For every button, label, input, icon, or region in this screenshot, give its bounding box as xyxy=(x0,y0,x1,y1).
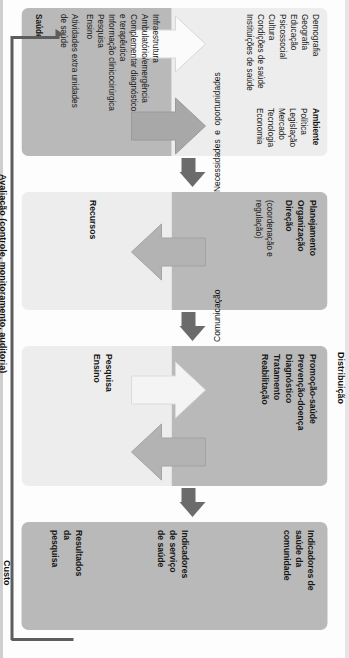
eval-arrow-head xyxy=(55,29,63,39)
processos-pesquisa: Pesquisa xyxy=(103,354,113,392)
label-avaliacao: Avaliação (controle, monitoramento, audi… xyxy=(0,174,7,373)
entrada-saude-item-7: Atividades extra unidades xyxy=(68,14,78,108)
entrada-ambiente-item-4: Economia xyxy=(253,108,263,144)
entrada-inner-arrow-dark xyxy=(129,96,207,156)
label-comunicacao: Comunicação xyxy=(211,300,221,342)
processos-ensino: Ensino xyxy=(91,354,101,383)
processos-item-1: Prevenção-doença xyxy=(295,354,305,430)
gestao-item-1: Organização xyxy=(295,200,305,252)
gestao-item-2: Direção xyxy=(283,200,293,232)
gestao-note-1: regulação) xyxy=(252,200,262,239)
resultado-1-line-1: de serviço xyxy=(167,530,177,573)
entrada-context-item-2: Educação xyxy=(287,14,297,50)
gestao-recursos: Recursos xyxy=(87,200,97,239)
gestao-item-0: Planejamento xyxy=(307,200,317,256)
entrada-context-item-5: Condições de saúde xyxy=(254,14,264,89)
entrada-ambiente-header: Ambiente xyxy=(309,108,319,145)
processos-inner-arrow-light xyxy=(129,360,207,420)
processos-item-3: Tratamento xyxy=(271,354,281,400)
processos-inner-arrow-dark xyxy=(129,422,207,482)
entrada-ambiente-item-2: Mercado xyxy=(275,108,285,140)
label-custo: Custo xyxy=(1,560,11,586)
processos-item-0: Promoção-saúde xyxy=(307,354,317,424)
box-gestao: Planejamento Organização Direção (coorde… xyxy=(21,192,327,310)
entrada-saude-item-0: Infraestrutura xyxy=(149,14,159,63)
resultado-2-line-2: pesquisa xyxy=(49,530,59,567)
resultado-2-line-0: Resultados xyxy=(73,530,83,576)
resultado-1-line-0: Indicadores xyxy=(179,530,189,578)
entrada-context-item-4: Cultura xyxy=(265,14,275,40)
entrada-context-item-6: Instituições de saúde xyxy=(243,14,253,91)
eval-line-riser xyxy=(11,36,59,39)
entrada-ambiente-item-3: Tecnologia xyxy=(264,108,274,147)
entrada-saude-item-5: Pesquisa xyxy=(94,14,104,48)
resultado-1-line-2: de saúde xyxy=(155,530,165,567)
entrada-saude-item-2: Complementar diagnóstico xyxy=(127,14,137,111)
entrada-context-item-0: Demografia xyxy=(309,14,319,56)
diagram-canvas: Ambiente Política Legislação Mercado Tec… xyxy=(0,0,349,658)
box-entrada: Ambiente Política Legislação Mercado Tec… xyxy=(21,8,327,156)
entrada-saude-item-3: e terapêutica xyxy=(116,14,126,61)
resultado-0-line-1: saúde da xyxy=(293,530,303,567)
entrada-saude-header: Saúde xyxy=(32,14,42,39)
eval-line-horizontal xyxy=(11,36,14,640)
entrada-ambiente-item-0: Política xyxy=(297,108,307,135)
entrada-context-item-1: Geografia xyxy=(298,14,308,50)
resultado-2-line-1: da xyxy=(61,530,71,540)
box-processos: Promoção-saúde Prevenção-doença Diagnóst… xyxy=(21,346,327,486)
entrada-saude-item-4: Informação clinicocirúrgica xyxy=(105,14,115,111)
processos-item-2: Diagnóstico xyxy=(283,354,293,403)
entrada-ambiente-item-1: Legislação xyxy=(286,108,296,147)
label-necessidades: Necessidades e oportunidades xyxy=(211,152,221,192)
box-resultados: Indicadores de saúde da comunidade Indic… xyxy=(21,522,327,630)
label-distribuicao: Distribuição xyxy=(335,352,345,404)
processos-item-4: Reabilitação xyxy=(259,354,269,405)
gestao-note-0: (coordenação e xyxy=(263,200,273,257)
gestao-inner-arrow xyxy=(129,222,207,282)
resultado-0-line-0: Indicadores de xyxy=(305,530,315,591)
eval-line-vertical xyxy=(11,638,73,641)
resultado-0-line-2: comunidade xyxy=(281,530,291,581)
entrada-context-item-3: Psicossocial xyxy=(276,14,286,59)
entrada-saude-item-6: Ensino xyxy=(83,14,93,39)
entrada-saude-item-1: Ambulatório/emergência xyxy=(138,14,148,103)
